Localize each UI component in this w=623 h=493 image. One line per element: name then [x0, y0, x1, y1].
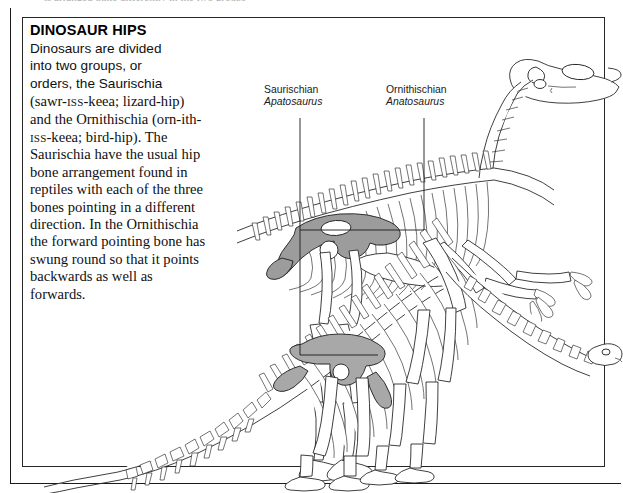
caption-title: DINOSAUR HIPS — [30, 21, 206, 39]
label-saurischian: Saurischian Apatosaurus — [264, 84, 322, 109]
caption-sans-line-3: orders, the Saurischia — [30, 75, 206, 92]
caption-block: DINOSAUR HIPS Dinosaurs are divided into… — [30, 21, 206, 303]
caption-smallcaps-1: iss — [67, 92, 84, 109]
caption-smallcaps-2: iss — [30, 128, 47, 145]
caption-sans-lines: Dinosaurs are divided into two groups, o… — [30, 40, 206, 92]
label-saurischian-order: Saurischian — [264, 84, 318, 95]
caption-sans-line-1: Dinosaurs are divided — [30, 40, 206, 57]
figure-plate: is arranged quite differently in the two… — [0, 0, 623, 493]
clipped-text-above: is arranged quite differently in the two… — [44, 0, 584, 1]
caption-serif-part-1: (sawr- — [30, 93, 67, 109]
label-ornithischian: Ornithischian Anatosaurus — [386, 84, 447, 109]
caption-serif-paragraph: (sawr-iss-keea; lizard-hip) and the Orni… — [30, 92, 206, 303]
label-ornithischian-genus: Anatosaurus — [386, 96, 447, 108]
label-ornithischian-order: Ornithischian — [386, 84, 447, 95]
label-saurischian-genus: Apatosaurus — [264, 96, 322, 108]
caption-sans-line-2: into two groups, or — [30, 57, 206, 74]
caption-serif-part-3: -keea; bird-hip). The Saurischia have th… — [30, 129, 205, 302]
